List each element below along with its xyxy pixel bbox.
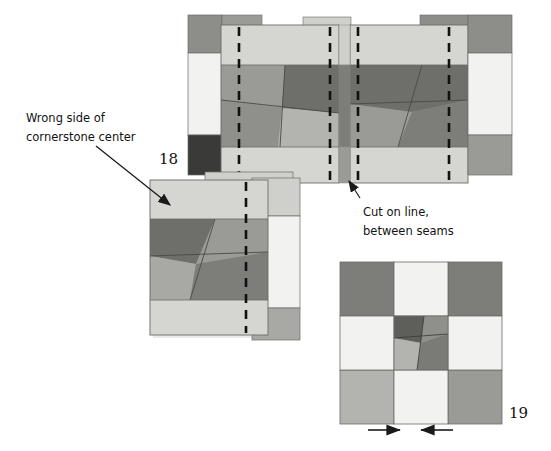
step-number-19: 19 <box>509 404 528 422</box>
wrong-side-annotation-line2: cornerstone center <box>26 128 136 147</box>
center-gap-column <box>339 25 350 183</box>
cut-on-line-annotation: Cut on line, between seams <box>363 203 454 241</box>
wrong-side-annotation-line1: Wrong side of <box>26 109 136 128</box>
cut-on-line-annotation-line2: between seams <box>363 222 454 241</box>
unit-19-group <box>340 262 502 430</box>
block19-edge-left <box>340 316 394 370</box>
left-edge-column <box>188 15 222 175</box>
unit-18-group <box>150 172 300 340</box>
block19-corner-top-left <box>340 262 394 316</box>
block19-edge-bottom <box>394 370 448 424</box>
wrong-side-annotation: Wrong side of cornerstone center <box>26 109 136 147</box>
right-edge-column <box>468 15 512 175</box>
diagram-canvas: Wrong side of cornerstone center Cut on … <box>0 0 551 451</box>
cut-on-line-annotation-line1: Cut on line, <box>363 203 454 222</box>
block19-edge-top <box>394 262 448 316</box>
cut-line-leader-line <box>349 181 360 198</box>
strip-set-group <box>188 15 512 183</box>
block19-corner-top-right <box>448 262 502 316</box>
block19-corner-bottom-left <box>340 370 394 424</box>
block19-pinwheel-center <box>394 316 448 370</box>
block19-corner-bottom-right <box>448 370 502 424</box>
quilt-diagram-svg <box>0 0 551 451</box>
step-number-18: 18 <box>159 150 178 168</box>
block19-edge-right <box>448 316 502 370</box>
